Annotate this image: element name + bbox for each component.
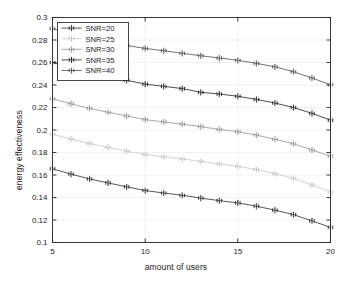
legend-label: SNR=25 bbox=[86, 35, 115, 44]
x-tick-label: 5 bbox=[50, 247, 55, 256]
y-axis-label: energy effectiveness bbox=[14, 110, 24, 190]
y-tick-label: 0.2 bbox=[36, 126, 48, 135]
y-tick-label: 0.28 bbox=[32, 36, 48, 45]
chart-canvas: 0.10.120.140.160.180.20.220.240.260.280.… bbox=[0, 0, 352, 284]
x-tick-label: 15 bbox=[233, 247, 242, 256]
y-tick-label: 0.14 bbox=[32, 193, 48, 202]
series-snr-20 bbox=[50, 166, 333, 230]
x-tick-label: 10 bbox=[141, 247, 150, 256]
y-tick-label: 0.24 bbox=[32, 81, 48, 90]
y-tick-label: 0.1 bbox=[36, 238, 48, 247]
chart-figure: 0.10.120.140.160.180.20.220.240.260.280.… bbox=[0, 0, 352, 284]
y-tick-label: 0.22 bbox=[32, 103, 48, 112]
y-tick-label: 0.18 bbox=[32, 148, 48, 157]
chart-legend[interactable]: SNR=20SNR=25SNR=30SNR=35SNR=40 bbox=[58, 23, 129, 81]
x-tick-label: 20 bbox=[326, 247, 335, 256]
legend-label: SNR=35 bbox=[86, 56, 115, 65]
x-axis-label: amount of users bbox=[0, 262, 352, 272]
y-tick-label: 0.26 bbox=[32, 58, 48, 67]
series-snr-25 bbox=[50, 132, 333, 195]
legend-label: SNR=40 bbox=[86, 66, 115, 75]
y-tick-label: 0.3 bbox=[36, 13, 48, 22]
legend-label: SNR=30 bbox=[86, 45, 115, 54]
series-snr-30 bbox=[50, 96, 333, 159]
y-tick-label: 0.12 bbox=[32, 216, 48, 225]
y-tick-label: 0.16 bbox=[32, 171, 48, 180]
legend-label: SNR=20 bbox=[86, 24, 115, 33]
